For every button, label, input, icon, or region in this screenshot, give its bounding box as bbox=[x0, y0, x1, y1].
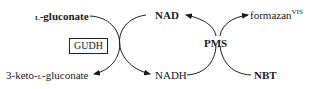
nad-label: NAD bbox=[155, 9, 179, 21]
product-label: 3-keto-l-gluconate bbox=[6, 69, 88, 82]
formazan-label: formazanVIS bbox=[250, 9, 303, 21]
nbt-label: NBT bbox=[254, 69, 277, 81]
pms-label: PMS bbox=[204, 37, 227, 49]
substrate-label: l-gluconate bbox=[35, 10, 89, 23]
enzyme-box: GUDH bbox=[69, 38, 108, 54]
nadh-label: NADH bbox=[155, 69, 187, 81]
arrow-nad-to-nadh bbox=[119, 15, 150, 74]
